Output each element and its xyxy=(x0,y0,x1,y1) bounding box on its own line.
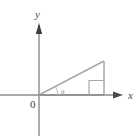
right-angle-marker xyxy=(89,81,104,96)
x-axis-arrowhead xyxy=(113,92,123,99)
y-axis-arrowhead xyxy=(36,23,42,34)
coordinate-diagram: θ 0 x y xyxy=(0,0,138,139)
x-axis-label: x xyxy=(127,89,133,101)
angle-arc xyxy=(56,87,59,96)
triangle-hypotenuse xyxy=(39,61,104,95)
origin-label: 0 xyxy=(30,98,36,110)
figure-container: θ 0 x y xyxy=(0,0,138,139)
y-axis-label: y xyxy=(34,8,40,20)
angle-label: θ xyxy=(61,88,65,96)
